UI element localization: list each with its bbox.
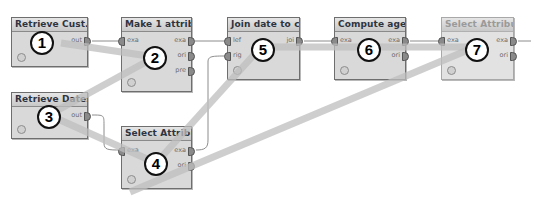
order-badge-5: 5 [251,38,275,62]
port-label-exa: exa [340,36,352,44]
port-label-ori: ori [392,51,400,59]
status-indicator-icon [127,175,136,184]
status-indicator-icon [127,78,136,87]
input-port-exa[interactable] [438,37,445,46]
operator-title: Join date to c... [228,18,299,32]
status-indicator-icon [17,53,26,62]
port-label-exa: exa [447,36,459,44]
status-indicator-icon [340,66,349,75]
port-label-exa: exa [127,36,139,44]
status-indicator-icon [233,66,242,75]
input-port-lef[interactable] [224,37,231,46]
port-label-exa: exa [127,146,139,154]
port-label-out: out [71,111,82,119]
wire-3-out-to-4-exa [92,115,121,150]
order-badge-4: 4 [144,152,168,176]
port-label-lef: lef [233,36,241,44]
port-label-exa-out: exa [388,36,400,44]
operator-title: Retrieve Cust... [12,18,87,32]
process-canvas[interactable]: Retrieve Cust... out Make 1 attrib ... e… [0,0,543,199]
input-port-exa[interactable] [118,37,125,46]
port-label-exa-out: exa [174,36,186,44]
operator-title: Select Attribu... [122,127,191,141]
port-label-ori: ori [178,161,186,169]
status-indicator-icon [17,125,26,134]
order-badge-3: 3 [37,105,61,129]
input-port-exa[interactable] [118,147,125,156]
port-label-ori: ori [500,51,508,59]
wire-4-exa-to-5-rig [196,56,227,150]
order-badge-7: 7 [465,38,489,62]
port-label-joi: joi [286,36,294,44]
order-badge-1: 1 [30,31,54,55]
port-label-out: out [71,36,82,44]
operator-title: Select Attribu... [442,18,513,32]
order-badge-6: 6 [357,38,381,62]
input-port-rig[interactable] [224,52,231,61]
port-label-exa-out: exa [496,36,508,44]
operator-title: Make 1 attrib ... [122,18,191,32]
port-label-pre: pre [175,66,186,74]
operator-title: Compute age [335,18,405,32]
order-badge-2: 2 [143,46,167,70]
port-label-exa-out: exa [174,146,186,154]
status-indicator-icon [447,66,456,75]
port-label-rig: rig [233,51,242,59]
port-label-ori: ori [178,51,186,59]
input-port-exa[interactable] [331,37,338,46]
